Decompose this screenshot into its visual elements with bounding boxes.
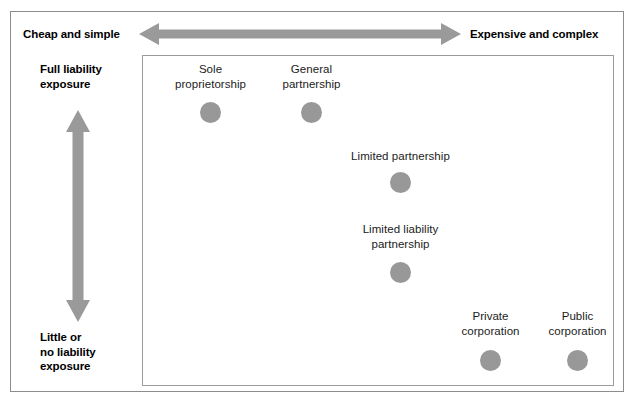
data-point-sole-proprietorship bbox=[200, 102, 221, 123]
point-label-sole-proprietorship: Sole proprietorship bbox=[163, 62, 258, 92]
x-axis-low-label: Cheap and simple bbox=[23, 27, 120, 42]
x-axis-high-label: Expensive and complex bbox=[470, 27, 598, 42]
horizontal-double-arrow-icon bbox=[139, 21, 461, 47]
y-axis-low-label: Little or no liability exposure bbox=[40, 330, 96, 374]
data-point-public-corporation bbox=[567, 350, 588, 371]
business-structure-comparison-diagram: Cheap and simple Expensive and complex F… bbox=[0, 0, 634, 403]
data-point-limited-partnership bbox=[390, 172, 411, 193]
point-label-general-partnership: General partnership bbox=[266, 62, 357, 92]
point-label-private-corporation: Private corporation bbox=[441, 309, 540, 339]
data-point-general-partnership bbox=[301, 102, 322, 123]
data-point-limited-liability-partnership bbox=[390, 262, 411, 283]
point-label-limited-liability-partnership: Limited liability partnership bbox=[343, 222, 458, 252]
vertical-double-arrow-icon bbox=[64, 110, 92, 322]
y-axis-high-label: Full liability exposure bbox=[40, 62, 102, 91]
data-point-private-corporation bbox=[480, 350, 501, 371]
point-label-limited-partnership: Limited partnership bbox=[338, 149, 463, 164]
point-label-public-corporation: Public corporation bbox=[528, 309, 627, 339]
